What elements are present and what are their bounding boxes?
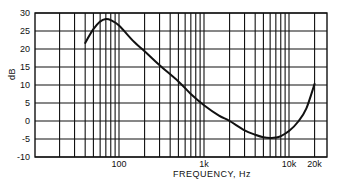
frequency-response-chart: 302520151050-5-10 1001k10k20k dB FREQUEN…: [0, 0, 338, 186]
y-axis-label: dB: [7, 68, 17, 80]
y-tick-label: 10: [20, 80, 30, 90]
y-tick-label: 20: [20, 44, 30, 54]
y-tick-label: 25: [20, 26, 30, 36]
y-tick-label: -10: [17, 152, 30, 162]
x-tick-label: 20k: [307, 159, 322, 169]
y-tick-label: -5: [22, 134, 30, 144]
x-tick-label: 100: [111, 159, 126, 169]
x-tick-label: 1k: [199, 159, 209, 169]
y-tick-label: 5: [25, 98, 30, 108]
x-tick-label: 10k: [282, 159, 297, 169]
y-axis-tick-labels: 302520151050-5-10: [17, 8, 30, 162]
y-tick-label: 0: [25, 116, 30, 126]
y-tick-label: 30: [20, 8, 30, 18]
y-tick-label: 15: [20, 62, 30, 72]
x-axis-tick-labels: 1001k10k20k: [111, 159, 322, 169]
x-axis-label: FREQUENCY, Hz: [173, 169, 251, 179]
